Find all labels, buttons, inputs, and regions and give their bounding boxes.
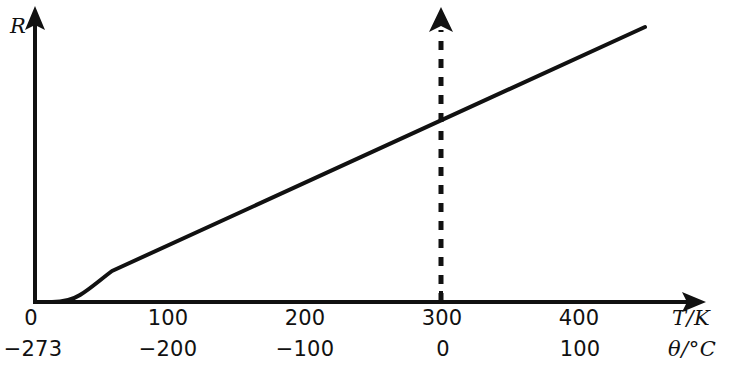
y-axis-title: R — [10, 14, 26, 38]
x-axis-title-kelvin: T/K — [672, 306, 710, 330]
x-tick-label-kelvin-200: 200 — [285, 306, 326, 330]
data-series-resistance — [35, 27, 645, 302]
x-tick-label-celsius-minus100: −100 — [276, 337, 334, 361]
x-axis-title-celsius: θ/°C — [668, 337, 716, 361]
zero-celsius-arrowhead — [429, 7, 453, 32]
x-tick-label-kelvin-100: 100 — [148, 306, 189, 330]
x-tick-label-kelvin-0: 0 — [24, 306, 38, 330]
x-tick-label-celsius-minus200: −200 — [139, 337, 197, 361]
x-tick-label-kelvin-300: 300 — [422, 306, 463, 330]
x-tick-label-celsius-0: 0 — [436, 337, 450, 361]
plot-canvas — [0, 0, 745, 372]
x-tick-label-kelvin-400: 400 — [559, 306, 600, 330]
resistance-temperature-graph: R 0 100 200 300 400 T/K −273 −200 −100 0… — [0, 0, 745, 372]
x-tick-label-celsius-minus273: −273 — [4, 337, 62, 361]
x-tick-label-celsius-100: 100 — [560, 337, 601, 361]
